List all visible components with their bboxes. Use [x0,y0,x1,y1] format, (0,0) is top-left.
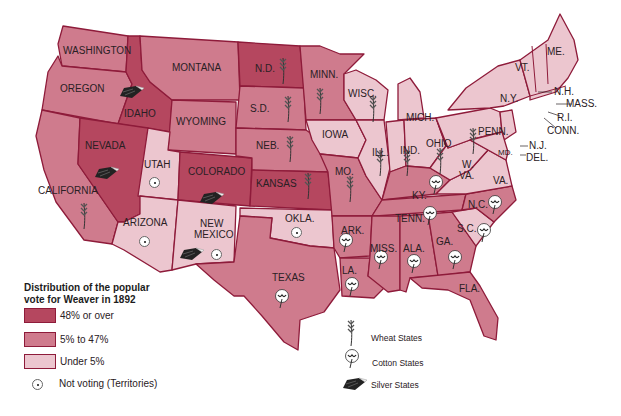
label-utah: UTAH [144,160,170,170]
legend-swatch-low [24,354,56,369]
label-pennsylvania: PENN. [478,127,509,137]
label-tennessee: TENN. [395,214,425,224]
legend-title-line2: vote for Weaver in 1892 [24,294,184,306]
label-oregon: OREGON [60,84,104,94]
legend-label-mid: 5% to 47% [60,334,108,345]
label-montana: MONTANA [172,63,221,73]
not-voting-target-icon [291,227,302,238]
not-voting-target-icon [211,249,222,260]
state-wyoming [168,100,236,154]
not-voting-target-icon [139,236,150,247]
label-vermont: VT. [515,63,529,73]
label-iowa: IOWA [322,130,348,140]
symbol-legend-wheat: Wheat States [371,333,422,343]
legend-title-line1: Distribution of the popular [24,282,184,294]
symbol-legend-cotton: Cotton States [372,358,424,368]
label-mississippi: MISS. [370,244,397,254]
label-ohio: OHIO [426,139,452,149]
state-south-dakota [236,86,306,130]
legend-swatch-high [24,308,56,323]
label-wisconsin: WISC. [348,89,377,99]
label-florida: FLA. [459,284,480,294]
label-texas: TEXAS [272,273,305,283]
label-new-mexico: MEXICO [194,230,233,240]
legend-label-high: 48% or over [60,310,114,321]
legend-title: Distribution of the popular vote for Wea… [24,282,184,306]
state-florida [410,272,498,340]
label-indiana: IND. [400,146,420,156]
label-minnesota: MINN. [310,70,338,80]
legend-label-low: Under 5% [60,356,104,367]
not-voting-target-icon [149,177,160,188]
label-louisiana: LA. [342,266,357,276]
label-colorado: COLORADO [188,167,245,177]
legend-label-not-voting: Not voting (Territories) [59,378,157,389]
label-maine: ME. [547,47,565,57]
label-delaware: DEL. [526,153,548,163]
label-illinois: ILL. [372,148,389,158]
label-new-york: N.Y. [500,94,518,104]
label-wyoming: WYOMING [176,117,226,127]
label-south-dakota: S.D. [250,104,269,114]
legend-swatch-mid [24,332,56,347]
label-west-virginia: VA. [459,171,474,181]
label-arkansas: ARK. [341,226,364,236]
label-south-carolina: S.C. [457,224,476,234]
label-new-hampshire: N.H. [554,87,574,97]
label-virginia: VA. [493,176,508,186]
label-michigan: MICH. [406,113,434,123]
label-georgia: GA. [436,237,453,247]
label-new-jersey: N.J. [529,141,547,151]
label-washington: WASHINGTON [63,46,131,56]
state-kansas [250,170,332,210]
label-nebraska: NEB. [256,141,279,151]
label-connecticut: CONN. [547,126,579,136]
symbol-legend-silver: Silver States [371,380,419,390]
label-north-carolina: N.C. [468,200,488,210]
label-kansas: KANSAS [256,179,297,189]
silver-ore-icon [343,378,367,390]
label-rhode-island: R.I. [557,113,573,123]
label-idaho: IDAHO [124,109,156,119]
target-dot-icon [32,379,43,390]
label-california: CALIFORNIA [38,186,98,196]
label-nevada: NEVADA [85,141,125,151]
label-arizona: ARIZONA [123,218,167,228]
label-maryland: MD. [498,149,513,157]
label-kentucky: KY. [412,191,427,201]
label-massachusetts: MASS. [566,99,597,109]
label-west-virginia: W. [462,160,474,170]
label-alabama: ALA. [403,244,425,254]
wheat-icon [348,320,354,346]
label-new-mexico: NEW [200,219,223,229]
label-oklahoma: OKLA. [285,214,314,224]
label-north-dakota: N.D. [255,64,275,74]
cotton-icon [346,350,359,369]
label-missouri: MO. [335,167,354,177]
